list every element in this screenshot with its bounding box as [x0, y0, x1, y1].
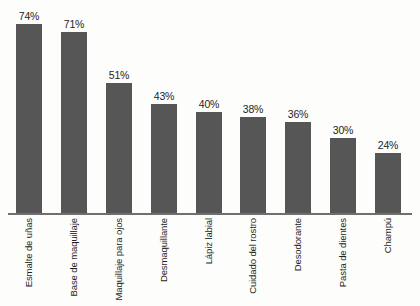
category-label: Lápiz labial: [204, 218, 214, 264]
bar-value-label: 71%: [53, 18, 95, 30]
bar-value-label: 38%: [232, 103, 274, 115]
category-label: Esmalte de uñas: [24, 218, 34, 287]
bar-slot: 51%: [98, 0, 140, 215]
x-axis-category-labels: Esmalte de uñas Base de maquillaje Maqui…: [0, 218, 420, 306]
category-label: Pasta de dientes: [338, 218, 348, 287]
bar-rect: [151, 104, 177, 215]
category-label-slot: Cuidado del rostro: [232, 218, 274, 306]
bar-slot: 38%: [232, 0, 274, 215]
bar-rect: [16, 24, 42, 215]
bar-value-label: 74%: [8, 10, 50, 22]
bar-value-label: 36%: [277, 108, 319, 120]
category-label-slot: Lápiz labial: [188, 218, 230, 306]
bar-value-label: 24%: [367, 139, 409, 151]
bar-rect: [196, 112, 222, 215]
bar-rect: [285, 122, 311, 215]
bar-slot: 71%: [53, 0, 95, 215]
category-label-slot: Desmaquillante: [143, 218, 185, 306]
category-label-slot: Esmalte de uñas: [8, 218, 50, 306]
category-label-slot: Pasta de dientes: [322, 218, 364, 306]
category-label: Desodorante: [293, 218, 303, 271]
category-label: Desmaquillante: [159, 218, 169, 282]
category-label-slot: Desodorante: [277, 218, 319, 306]
bar-value-label: 43%: [143, 90, 185, 102]
plot-area: 74% 71% 51% 43% 40% 38% 36% 30%: [0, 0, 420, 215]
bar-rect: [106, 83, 132, 215]
category-label: Maquillaje para ojos: [114, 218, 124, 301]
category-label-slot: Base de maquillaje: [53, 218, 95, 306]
bar-slot: 24%: [367, 0, 409, 215]
bar-slot: 36%: [277, 0, 319, 215]
category-label: Cuidado del rostro: [248, 218, 258, 294]
bar-rect: [61, 32, 87, 215]
bar-slot: 74%: [8, 0, 50, 215]
bar-rect: [330, 138, 356, 215]
bar-value-label: 30%: [322, 124, 364, 136]
bar-slot: 30%: [322, 0, 364, 215]
bar-rect: [375, 153, 401, 215]
bar-value-label: 40%: [188, 98, 230, 110]
bar-slot: 40%: [188, 0, 230, 215]
x-axis-line: [8, 213, 412, 215]
category-label-slot: Champú: [367, 218, 409, 306]
category-label-slot: Maquillaje para ojos: [98, 218, 140, 306]
bar-slot: 43%: [143, 0, 185, 215]
bar-chart: 74% 71% 51% 43% 40% 38% 36% 30%: [0, 0, 420, 306]
bar-rect: [240, 117, 266, 215]
bar-value-label: 51%: [98, 69, 140, 81]
category-label: Champú: [383, 218, 393, 253]
category-label: Base de maquillaje: [69, 218, 79, 296]
